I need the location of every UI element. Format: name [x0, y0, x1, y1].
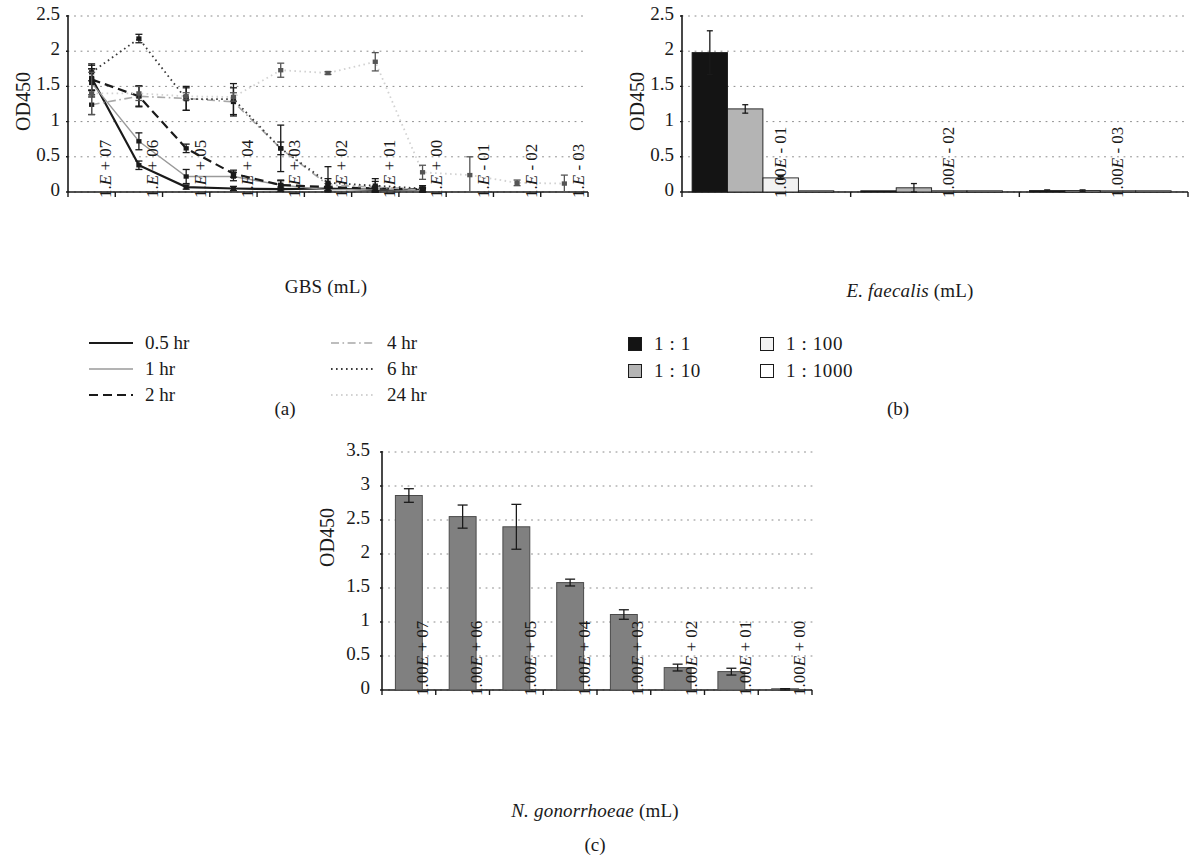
x-tick-label: 1.00E + 03	[628, 621, 648, 696]
y-tick-label: 0.5	[280, 643, 370, 665]
legend-line-swatch	[88, 363, 134, 375]
y-tick-label: 0	[0, 179, 60, 201]
panel-c-x-axis-label-species: N. gonorrhoeae	[511, 800, 634, 821]
legend-item-label: 6 hr	[387, 358, 417, 380]
legend-item-6-hr[interactable]: 6 hr	[330, 356, 427, 382]
legend-color-swatch	[628, 364, 642, 378]
panel-b-legend-column-2: 1 : 1001 : 1000	[760, 330, 853, 384]
legend-color-swatch	[628, 337, 642, 351]
panel-c-x-axis-label-unit: (mL)	[634, 800, 679, 821]
x-tick-label: 1.E + 06	[143, 140, 163, 198]
x-tick-label: 1.00E + 06	[467, 621, 487, 696]
y-tick-label: 0	[280, 677, 370, 699]
x-tick-label: 1.E - 02	[522, 144, 542, 198]
legend-line-swatch	[330, 363, 376, 375]
x-tick-label: 1.E + 07	[96, 140, 116, 198]
legend-line-swatch	[88, 337, 134, 349]
legend-line-swatch	[330, 389, 376, 401]
x-tick-label: 1.00E - 03	[1108, 127, 1128, 198]
panel-b: OD450 00.511.522.5 1.00E - 011.00E - 021…	[600, 0, 1186, 430]
x-tick-label: 1.E + 04	[238, 140, 258, 198]
bar	[798, 191, 833, 192]
legend-item-label: 1 : 100	[786, 333, 843, 355]
legend-item-label: 0.5 hr	[145, 332, 189, 354]
panel-a-legend-column-2: 4 hr6 hr24 hr	[330, 330, 427, 408]
panel-c: OD450 00.511.522.533.5 1.00E + 071.00E +…	[280, 436, 920, 868]
legend-line-swatch	[330, 337, 376, 349]
legend-item-label: 1 : 1000	[786, 360, 853, 382]
panel-b-caption: (b)	[868, 398, 928, 420]
legend-item-1---1[interactable]: 1 : 1	[628, 330, 701, 357]
x-tick-label: 1.00E + 01	[736, 621, 756, 696]
x-tick-label: 1.00E - 01	[771, 127, 791, 198]
legend-item-4-hr[interactable]: 4 hr	[330, 330, 427, 356]
legend-item-label: 24 hr	[387, 384, 427, 406]
legend-item-label: 1 : 10	[654, 360, 701, 382]
panel-a-x-axis-label: GBS (mL)	[66, 276, 586, 298]
x-tick-label: 1.00E + 02	[682, 621, 702, 696]
y-tick-label: 2	[600, 38, 674, 60]
panel-b-y-axis-label: OD450	[626, 57, 649, 147]
legend-item-label: 2 hr	[145, 384, 175, 406]
x-tick-label: 1.E + 00	[427, 140, 447, 198]
x-tick-label: 1.E + 02	[332, 140, 352, 198]
panel-b-x-axis-label-species: E. faecalis	[846, 280, 928, 301]
y-tick-label: 2	[0, 38, 60, 60]
y-tick-label: 2.5	[280, 507, 370, 529]
y-tick-label: 1.5	[280, 575, 370, 597]
panel-c-x-axis-label: N. gonorrhoeae (mL)	[380, 800, 810, 822]
legend-line-swatch	[88, 389, 134, 401]
legend-item-0-5-hr[interactable]: 0.5 hr	[88, 330, 189, 356]
y-tick-label: 1.5	[0, 73, 60, 95]
y-tick-label: 0.5	[600, 144, 674, 166]
legend-item-label: 1 : 1	[654, 333, 691, 355]
legend-item-1---1000[interactable]: 1 : 1000	[760, 357, 853, 384]
y-tick-label: 2	[280, 541, 370, 563]
bar	[967, 191, 1002, 192]
legend-item-label: 1 hr	[145, 358, 175, 380]
x-tick-label: 1.E - 03	[569, 144, 589, 198]
legend-color-swatch	[760, 364, 774, 378]
y-tick-label: 1	[280, 609, 370, 631]
y-tick-label: 1	[0, 109, 60, 131]
legend-item-1---10[interactable]: 1 : 10	[628, 357, 701, 384]
bar	[861, 191, 896, 192]
y-tick-label: 3.5	[280, 439, 370, 461]
bar	[728, 109, 763, 192]
legend-item-24-hr[interactable]: 24 hr	[330, 382, 427, 408]
x-tick-label: 1.E + 03	[285, 140, 305, 198]
y-tick-label: 2.5	[600, 3, 674, 25]
y-tick-label: 0	[600, 179, 674, 201]
panel-a-y-axis-label: OD450	[12, 57, 35, 147]
panel-a-legend-column-1: 0.5 hr1 hr2 hr	[88, 330, 189, 408]
legend-item-1---100[interactable]: 1 : 100	[760, 330, 853, 357]
y-tick-label: 0.5	[0, 144, 60, 166]
x-tick-label: 1.E + 05	[191, 140, 211, 198]
x-tick-label: 1.00E + 07	[413, 621, 433, 696]
panel-c-caption: (c)	[565, 834, 625, 856]
legend-item-2-hr[interactable]: 2 hr	[88, 382, 189, 408]
y-tick-label: 1.5	[600, 73, 674, 95]
legend-item-label: 4 hr	[387, 332, 417, 354]
panel-a-caption: (a)	[255, 398, 315, 420]
y-tick-label: 3	[280, 473, 370, 495]
x-tick-label: 1.00E + 05	[521, 621, 541, 696]
legend-color-swatch	[760, 337, 774, 351]
x-tick-label: 1.E + 01	[380, 140, 400, 198]
y-tick-label: 2.5	[0, 3, 60, 25]
panel-b-x-axis-label: E. faecalis (mL)	[680, 280, 1140, 302]
bar	[1136, 191, 1171, 192]
panel-a: OD450 00.511.522.5 1.E + 071.E + 061.E +…	[0, 0, 600, 430]
panel-b-x-axis-label-unit: (mL)	[929, 280, 974, 301]
panel-b-legend-column-1: 1 : 11 : 10	[628, 330, 701, 384]
y-tick-label: 1	[600, 109, 674, 131]
x-tick-label: 1.00E + 00	[790, 621, 810, 696]
x-tick-label: 1.00E - 02	[939, 127, 959, 198]
x-tick-label: 1.00E + 04	[575, 621, 595, 696]
x-tick-label: 1.E - 01	[474, 144, 494, 198]
legend-item-1-hr[interactable]: 1 hr	[88, 356, 189, 382]
